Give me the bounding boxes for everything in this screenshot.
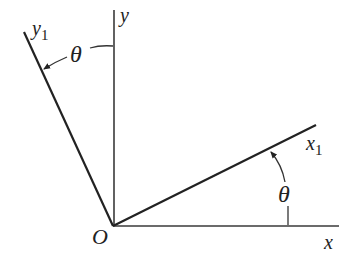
y-axis-label: y (118, 4, 129, 27)
y1-axis (24, 32, 113, 226)
y1-axis-label: y1 (30, 17, 48, 43)
angle-arc-x-upper (271, 152, 285, 182)
origin-label: O (92, 224, 108, 249)
rotation-diagram: O x y x1 y1 θ θ (0, 0, 359, 270)
x1-axis (113, 125, 316, 226)
angle-theta-x-label: θ (278, 181, 290, 207)
x1-axis-label: x1 (305, 132, 322, 158)
angle-arc-y-left (44, 57, 67, 69)
x-axis-label: x (323, 231, 333, 253)
angle-theta-y-label: θ (70, 41, 82, 67)
angle-arc-y-right (90, 46, 113, 48)
